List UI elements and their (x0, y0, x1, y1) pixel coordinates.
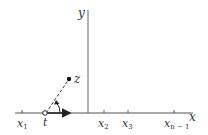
dashed-segment-t-z (46, 79, 69, 113)
point-z-label: z (73, 72, 81, 86)
x-axis-label: x (189, 110, 196, 124)
point-t (43, 111, 48, 116)
y-axis-label: y (77, 6, 85, 20)
tick-label-x3: x3 (122, 117, 133, 131)
point-t-label: t (43, 116, 48, 129)
point-z (67, 77, 71, 81)
diagram-canvas: y x x1 x2 x3 xn − 1 z t (0, 0, 208, 135)
tick-label-xn-1: xn − 1 (164, 117, 190, 131)
tick-label-x1: x1 (17, 117, 28, 131)
tick-label-x2: x2 (98, 117, 109, 131)
